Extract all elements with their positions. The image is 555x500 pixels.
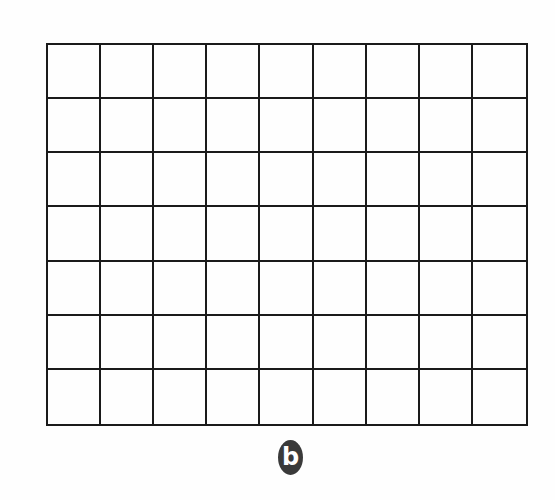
grid-cell bbox=[367, 153, 420, 207]
grid-cell bbox=[314, 262, 367, 316]
grid-cell bbox=[101, 370, 154, 424]
grid-cell bbox=[48, 262, 101, 316]
grid-cell bbox=[367, 262, 420, 316]
grid-cell bbox=[420, 99, 473, 153]
grid-cell bbox=[48, 45, 101, 99]
empty-grid bbox=[46, 43, 528, 426]
grid-cell bbox=[154, 153, 207, 207]
grid-cell bbox=[101, 207, 154, 261]
grid-cell bbox=[48, 99, 101, 153]
grid-cell bbox=[367, 45, 420, 99]
grid-cell bbox=[48, 153, 101, 207]
grid-cell bbox=[367, 207, 420, 261]
grid-cell bbox=[367, 370, 420, 424]
grid-cell bbox=[420, 45, 473, 99]
grid-cell bbox=[207, 99, 260, 153]
grid-cell bbox=[207, 370, 260, 424]
grid-cell bbox=[314, 370, 367, 424]
grid-cell bbox=[207, 45, 260, 99]
grid-cell bbox=[207, 207, 260, 261]
grid-cell bbox=[314, 316, 367, 370]
grid-cell bbox=[367, 316, 420, 370]
grid-cell bbox=[101, 45, 154, 99]
grid-cell bbox=[260, 45, 313, 99]
grid-cell bbox=[48, 207, 101, 261]
figure-label: b bbox=[282, 445, 299, 469]
grid-cell bbox=[314, 207, 367, 261]
grid-cell bbox=[48, 316, 101, 370]
grid-cell bbox=[207, 316, 260, 370]
grid-cell bbox=[473, 45, 526, 99]
grid-cell bbox=[260, 99, 313, 153]
grid-cell bbox=[473, 207, 526, 261]
grid-cell bbox=[101, 99, 154, 153]
grid-cell bbox=[260, 370, 313, 424]
figure-label-badge: b bbox=[278, 440, 303, 475]
grid-cell bbox=[154, 262, 207, 316]
grid-cell bbox=[473, 316, 526, 370]
grid-cell bbox=[154, 316, 207, 370]
grid-cell bbox=[154, 370, 207, 424]
grid-cell bbox=[314, 153, 367, 207]
grid-cell bbox=[420, 207, 473, 261]
grid-cell bbox=[473, 153, 526, 207]
grid-cell bbox=[314, 45, 367, 99]
grid-cell bbox=[420, 153, 473, 207]
grid-cell bbox=[420, 316, 473, 370]
grid-cell bbox=[154, 207, 207, 261]
grid-cell bbox=[101, 262, 154, 316]
grid-cell bbox=[367, 99, 420, 153]
grid-cell bbox=[101, 316, 154, 370]
grid-cell bbox=[48, 370, 101, 424]
grid-cell bbox=[101, 153, 154, 207]
grid-cell bbox=[314, 99, 367, 153]
grid-cell bbox=[260, 207, 313, 261]
grid-cell bbox=[154, 99, 207, 153]
grid-cell bbox=[473, 262, 526, 316]
grid-cell bbox=[473, 99, 526, 153]
grid-cell bbox=[207, 262, 260, 316]
grid-cell bbox=[260, 153, 313, 207]
grid-cell bbox=[207, 153, 260, 207]
grid-cell bbox=[473, 370, 526, 424]
grid-cell bbox=[420, 370, 473, 424]
grid-cell bbox=[420, 262, 473, 316]
grid-cell bbox=[154, 45, 207, 99]
grid-cell bbox=[260, 316, 313, 370]
grid-cell bbox=[260, 262, 313, 316]
